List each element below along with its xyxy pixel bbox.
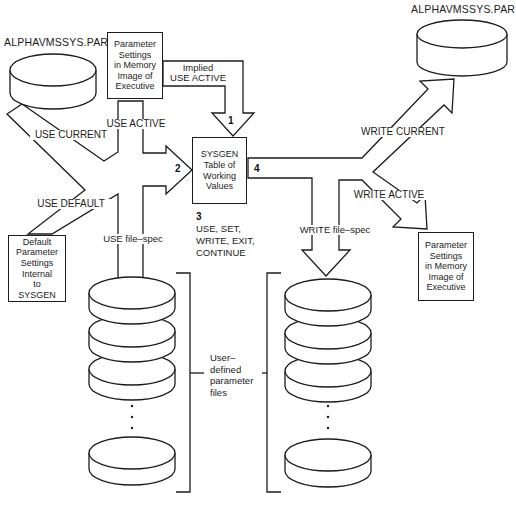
use-file-spec-label: USE file–spec	[98, 234, 168, 244]
left-stack-disk-bottom	[89, 437, 175, 485]
write-file-spec-label: WRITE file–spec	[296, 225, 374, 235]
memory-right-line5: Executive	[426, 282, 465, 293]
command-line-3: CONTINUE	[196, 247, 255, 259]
memory-top-line2: Settings	[119, 50, 152, 61]
implied-use-active-label: Implied USE ACTIVE	[166, 63, 230, 83]
memory-right-line2: Settings	[430, 251, 463, 262]
command-line-1: USE, SET,	[196, 223, 255, 235]
memory-top-line4: Image of	[117, 71, 152, 82]
right-parameter-file-stack	[285, 279, 371, 487]
disk-top-right	[417, 20, 507, 76]
stack-label-line2: defined	[210, 364, 262, 376]
memory-image-box-right: Parameter Settings in Memory Image of Ex…	[418, 232, 474, 301]
implied-use-active-line2: USE ACTIVE	[167, 73, 229, 83]
sysgen-line2: Table of	[204, 160, 236, 171]
left-parameter-file-stack	[89, 277, 175, 485]
user-defined-files-label: User– defined parameter files	[210, 352, 262, 398]
step-4-number: 4	[254, 164, 260, 174]
default-settings-box: Default Parameter Settings Internal to S…	[8, 235, 66, 302]
sysgen-working-values-box: SYSGEN Table of Working Values	[192, 137, 247, 204]
sysgen-line3: Working	[203, 171, 236, 182]
step-2-number: 2	[175, 164, 181, 174]
default-line5: to	[33, 279, 41, 290]
memory-right-line3: in Memory	[425, 261, 467, 272]
default-line1: Default	[23, 237, 52, 248]
sysgen-flow-diagram: ALPHAVMSSYS.PAR ALPHAVMSSYS.PAR USE CURR…	[0, 0, 516, 507]
right-stack-disk-1	[285, 279, 371, 326]
stack-label-line1: User–	[210, 352, 262, 364]
step-1-number: 1	[228, 116, 234, 126]
memory-top-line5: Executive	[115, 81, 154, 92]
memory-image-box-top: Parameter Settings in Memory Image of Ex…	[107, 32, 163, 99]
disk-top-right-title: ALPHAVMSSYS.PAR	[410, 4, 516, 14]
sysgen-line1: SYSGEN	[201, 149, 239, 160]
command-line-2: WRITE, EXIT,	[196, 235, 255, 247]
right-stack-disk-bottom	[285, 439, 371, 487]
memory-right-line1: Parameter	[425, 240, 467, 251]
write-current-label: WRITE CURRENT	[360, 127, 446, 137]
memory-top-line3: in Memory	[114, 60, 156, 71]
left-stack-ellipsis-dots	[131, 405, 133, 429]
memory-right-line4: Image of	[428, 272, 463, 283]
default-line4: Internal	[22, 269, 52, 280]
left-stack-bracket	[176, 273, 204, 492]
sysgen-command-list: USE, SET, WRITE, EXIT, CONTINUE	[196, 223, 255, 259]
stack-label-line3: parameter	[210, 375, 262, 387]
default-line6: SYSGEN	[18, 290, 56, 301]
right-stack-ellipsis-dots	[327, 405, 329, 429]
use-default-label: USE DEFAULT	[30, 199, 112, 209]
default-line3: Settings	[21, 258, 54, 269]
memory-top-line1: Parameter	[114, 39, 156, 50]
use-active-label: USE ACTIVE	[102, 119, 170, 129]
stack-label-line4: files	[210, 387, 262, 399]
write-active-label: WRITE ACTIVE	[348, 190, 430, 200]
disk-top-left	[10, 54, 96, 109]
default-line2: Parameter	[16, 247, 58, 258]
use-current-label: USE CURRENT	[30, 130, 112, 140]
disk-top-left-title: ALPHAVMSSYS.PAR	[3, 37, 109, 47]
step-3-number: 3	[196, 212, 202, 222]
left-stack-disk-1	[89, 277, 175, 324]
sysgen-line4: Values	[206, 181, 233, 192]
